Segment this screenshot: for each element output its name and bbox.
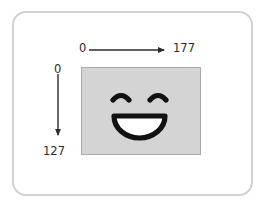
- diagram-canvas: 0 177 0 127: [0, 0, 269, 209]
- y-axis-end-label: 127: [43, 146, 65, 158]
- image-area: [81, 67, 201, 155]
- left-eye-icon: [113, 96, 129, 101]
- x-axis-end-label: 177: [173, 43, 195, 55]
- mouth-icon: [114, 116, 165, 138]
- right-eye-icon: [150, 96, 166, 101]
- smiley-face-icon: [82, 68, 202, 156]
- y-axis-start-label: 0: [54, 64, 61, 76]
- x-axis-start-label: 0: [79, 43, 86, 55]
